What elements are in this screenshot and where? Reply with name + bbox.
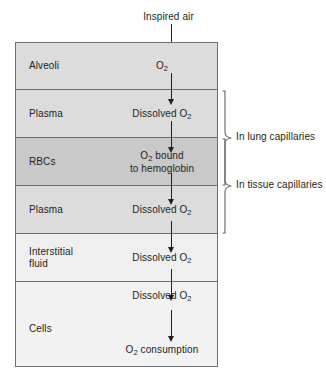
species-text-interstitial-fluid: Dissolved O bbox=[132, 252, 187, 263]
species-text-plasma-tissue: Dissolved O bbox=[132, 204, 187, 215]
compartment-plasma-tissue: Plasma Dissolved O2 bbox=[16, 186, 217, 234]
species-text-alveoli: O bbox=[156, 60, 164, 71]
species-subscript-alveoli: 2 bbox=[164, 64, 168, 73]
compartment-label-plasma-lung: Plasma bbox=[29, 108, 63, 120]
compartment-label-cells: Cells bbox=[29, 323, 52, 335]
species-text-cells: Dissolved O bbox=[132, 290, 187, 301]
compartment-plasma-lung: Plasma Dissolved O2 bbox=[16, 90, 217, 138]
species-text-plasma-lung: Dissolved O bbox=[132, 108, 187, 119]
species-subscript-cells: 2 bbox=[187, 294, 191, 303]
species-label-plasma-tissue: Dissolved O2 bbox=[106, 204, 218, 217]
compartment-interstitial-fluid: Interstitial fluid Dissolved O2 bbox=[16, 234, 217, 282]
species-subscript-rbcs: 2 bbox=[148, 154, 152, 163]
compartment-label-interstitial-fluid: Interstitial fluid bbox=[29, 246, 73, 270]
species-label-plasma-lung: Dissolved O2 bbox=[106, 108, 218, 121]
compartment-cells: Cells Dissolved O2 O2 consumption bbox=[16, 282, 217, 366]
species-subscript-plasma-tissue: 2 bbox=[187, 208, 191, 217]
compartment-rbcs: RBCs O2 boundto hemoglobin bbox=[16, 138, 217, 186]
species-subscript-interstitial-fluid: 2 bbox=[187, 256, 191, 265]
species-label-alveoli: O2 bbox=[106, 60, 218, 73]
consumption-suffix: consumption bbox=[138, 344, 199, 355]
bracket-label-lung-capillaries: In lung capillaries bbox=[236, 131, 315, 143]
compartment-label-plasma-tissue: Plasma bbox=[29, 204, 63, 216]
compartment-alveoli: Alveoli O2 bbox=[16, 43, 217, 90]
species-line2-rbcs: to hemoglobin bbox=[130, 163, 194, 174]
compartment-column: Alveoli O2 Plasma Dissolved O2 RBCs O2 b… bbox=[15, 42, 218, 367]
consumption-subscript: 2 bbox=[133, 348, 137, 357]
species-suffix-rbcs: bound bbox=[152, 150, 183, 161]
bracket-tissue-capillaries bbox=[222, 138, 232, 234]
compartment-label-rbcs: RBCs bbox=[29, 156, 56, 168]
compartment-label-alveoli: Alveoli bbox=[29, 60, 59, 72]
species-label-cells: Dissolved O2 bbox=[106, 290, 218, 303]
bracket-label-tissue-capillaries: In tissue capillaries bbox=[236, 179, 323, 191]
species-label-interstitial-fluid: Dissolved O2 bbox=[106, 252, 218, 265]
species-label-rbcs: O2 boundto hemoglobin bbox=[106, 150, 218, 175]
oxygen-consumption-label: O2 consumption bbox=[106, 344, 218, 357]
inspired-air-label: Inspired air bbox=[96, 11, 241, 23]
oxygen-transport-diagram: Inspired air Alveoli O2 Plasma Dissolved… bbox=[0, 0, 326, 374]
species-subscript-plasma-lung: 2 bbox=[187, 112, 191, 121]
